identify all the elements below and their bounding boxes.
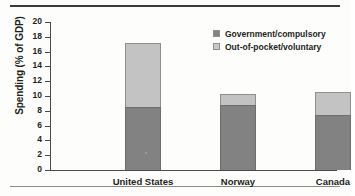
y-axis-tick: 20 — [45, 22, 50, 23]
x-axis-label-united-states: United States — [88, 176, 198, 187]
y-axis-tick: 12 — [45, 81, 50, 82]
y-axis-tick-label: 6 — [37, 120, 42, 130]
y-axis-tick-label: 12 — [33, 75, 42, 85]
y-axis-tick: 10 — [45, 96, 50, 97]
x-axis-label-norway: Norway — [183, 176, 293, 187]
bar-norway[interactable] — [220, 94, 256, 170]
x-axis-label-canada: Canada — [278, 176, 355, 187]
bar-segment-government[interactable] — [315, 115, 351, 171]
legend-item-out-of-pocket: Out-of-pocket/voluntary — [213, 40, 326, 53]
y-axis-tick: 4 — [45, 140, 50, 141]
y-axis-tick: 16 — [45, 52, 50, 53]
legend-swatch-government-icon — [213, 30, 220, 37]
bar-canada[interactable] — [315, 92, 351, 170]
x-axis-line — [50, 170, 337, 171]
bar-segment-out-of-pocket[interactable] — [125, 43, 161, 107]
y-axis-tick-label: 2 — [37, 149, 42, 159]
y-axis-tick: 8 — [45, 111, 50, 112]
y-axis-tick-label: 14 — [33, 60, 42, 70]
y-axis-tick: 6 — [45, 126, 50, 127]
y-axis-tick: 14 — [45, 66, 50, 67]
y-axis-tick-label: 10 — [33, 90, 42, 100]
bar-segment-out-of-pocket[interactable] — [315, 92, 351, 115]
y-axis-tick-label: 8 — [37, 105, 42, 115]
bar-united-states[interactable] — [125, 43, 161, 170]
legend-swatch-out-of-pocket-icon — [213, 43, 220, 50]
bar-segment-government[interactable] — [220, 105, 256, 170]
y-axis-tick-label: 20 — [33, 16, 42, 26]
y-axis-tick-label: 0 — [37, 164, 42, 174]
chart-legend: Government/compulsory Out-of-pocket/volu… — [213, 27, 326, 53]
bar-segment-out-of-pocket[interactable] — [220, 94, 256, 105]
y-axis-tick-label: 18 — [33, 31, 42, 41]
y-axis-line — [50, 22, 51, 170]
y-axis-tick: 0 — [45, 170, 50, 171]
scan-speck — [145, 152, 147, 154]
y-axis-tick-label: 16 — [33, 46, 42, 56]
y-axis-tick: 2 — [45, 155, 50, 156]
legend-item-government: Government/compulsory — [213, 27, 326, 40]
legend-label-out-of-pocket: Out-of-pocket/voluntary — [225, 42, 321, 52]
legend-label-government: Government/compulsory — [225, 29, 326, 39]
bar-segment-government[interactable] — [125, 107, 161, 170]
top-divider-rule — [10, 5, 340, 7]
y-axis-label: Spending (% of GDP) — [14, 0, 25, 141]
y-axis-tick: 18 — [45, 37, 50, 38]
y-axis-tick-label: 4 — [37, 134, 42, 144]
